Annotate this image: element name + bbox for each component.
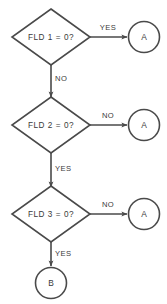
flowchart-canvas: FLD 1 = 0? FLD 2 = 0? FLD 3 = 0? A A A bbox=[0, 0, 167, 304]
connector-node-b[interactable]: B bbox=[36, 268, 67, 299]
edge-label-d3-yes: YES bbox=[55, 249, 71, 258]
connector-label-a-2: A bbox=[141, 120, 147, 130]
edge-label-d1-yes: YES bbox=[100, 23, 116, 32]
edge-label-d3-no: NO bbox=[102, 200, 114, 209]
connector-node-a-3[interactable]: A bbox=[129, 199, 160, 230]
flowchart-svg: FLD 1 = 0? FLD 2 = 0? FLD 3 = 0? A A A bbox=[0, 0, 167, 304]
connector-node-a-1[interactable]: A bbox=[129, 22, 160, 53]
edge-label-d2-yes: YES bbox=[55, 164, 71, 173]
decision-node-d1[interactable]: FLD 1 = 0? bbox=[12, 9, 90, 65]
connector-node-a-2[interactable]: A bbox=[129, 110, 160, 141]
edge-label-d2-no: NO bbox=[102, 111, 114, 120]
connector-label-a-1: A bbox=[141, 32, 147, 42]
connector-label-b: B bbox=[48, 278, 54, 288]
decision-node-d2[interactable]: FLD 2 = 0? bbox=[12, 97, 90, 153]
decision-label-d3: FLD 3 = 0? bbox=[28, 210, 74, 219]
decision-label-d1: FLD 1 = 0? bbox=[28, 33, 74, 42]
connector-label-a-3: A bbox=[141, 209, 147, 219]
decision-label-d2: FLD 2 = 0? bbox=[28, 121, 74, 130]
decision-node-d3[interactable]: FLD 3 = 0? bbox=[12, 186, 90, 242]
edge-label-d1-no: NO bbox=[55, 74, 67, 83]
